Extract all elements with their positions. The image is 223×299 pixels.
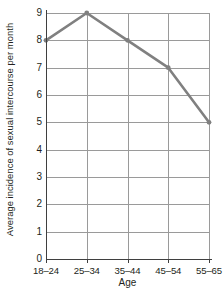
- data-point-2: [125, 38, 130, 43]
- x-tick-0: [46, 259, 47, 263]
- x-tick-3: [168, 259, 169, 263]
- y-tick-label-9: 9: [28, 8, 42, 18]
- x-tick-label-4: 55–65: [183, 265, 223, 276]
- x-axis-title: Age: [46, 277, 209, 288]
- data-point-1: [84, 11, 89, 16]
- series-polyline: [46, 13, 209, 122]
- y-tick-label-4: 4: [28, 145, 42, 155]
- y-tick-label-7: 7: [28, 63, 42, 73]
- data-point-3: [166, 65, 171, 70]
- y-tick-label-8: 8: [28, 35, 42, 45]
- y-axis-line: [46, 10, 47, 259]
- y-axis-tick-labels: 0123456789: [26, 13, 42, 259]
- gridline-x-4: [209, 13, 210, 259]
- x-axis-line: [46, 259, 212, 260]
- x-tick-4: [209, 259, 210, 263]
- data-series-line: [46, 13, 209, 259]
- y-tick-label-6: 6: [28, 90, 42, 100]
- plot-area: 18–2425–3435–4445–5455–65: [46, 13, 209, 259]
- x-tick-2: [128, 259, 129, 263]
- y-tick-label-3: 3: [28, 172, 42, 182]
- y-tick-label-2: 2: [28, 199, 42, 209]
- y-tick-label-0: 0: [28, 254, 42, 264]
- y-tick-label-5: 5: [28, 117, 42, 127]
- line-chart-figure: Average incidence of sexual intercourse …: [0, 0, 223, 299]
- y-tick-label-1: 1: [28, 227, 42, 237]
- x-tick-1: [87, 259, 88, 263]
- y-axis-title: Average incidence of sexual intercourse …: [0, 0, 18, 259]
- data-point-4: [207, 120, 212, 125]
- series-markers: [44, 11, 212, 125]
